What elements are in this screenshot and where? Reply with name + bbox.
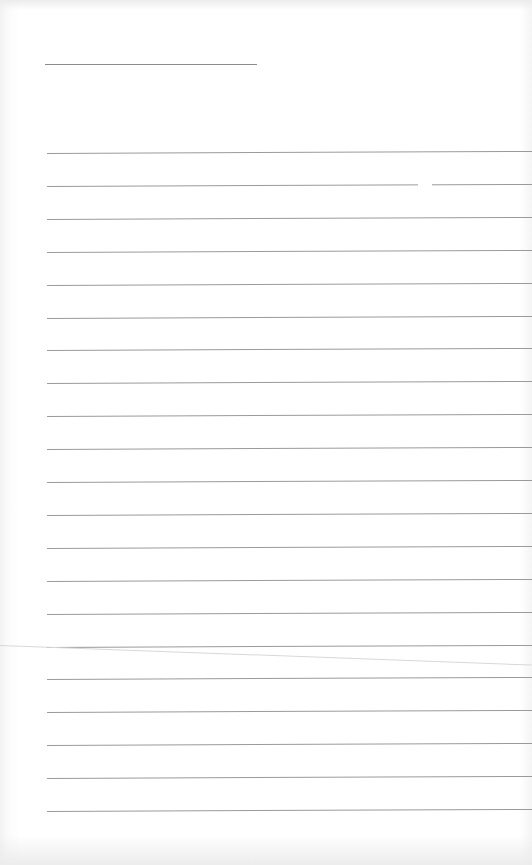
ruled-line	[47, 809, 532, 812]
ruled-line	[47, 414, 532, 417]
ruled-line	[47, 480, 532, 483]
notebook-page	[0, 0, 532, 865]
ruled-line	[47, 447, 532, 450]
ruled-line	[47, 381, 532, 384]
ruled-line	[47, 776, 532, 779]
ruled-line	[47, 579, 532, 582]
ruled-line	[47, 316, 532, 319]
ruled-line	[47, 217, 532, 220]
ruled-line	[47, 710, 532, 713]
ruled-line	[47, 612, 532, 615]
ruled-line	[47, 184, 532, 187]
ruled-line	[47, 250, 532, 253]
ruled-line	[47, 348, 532, 351]
scan-bottom-shadow	[0, 835, 532, 865]
ruled-line	[47, 151, 532, 154]
ruled-line	[47, 677, 532, 680]
ruled-line	[47, 283, 532, 286]
ruled-lines	[0, 0, 532, 865]
ruled-line	[47, 546, 532, 549]
ruled-line	[47, 743, 532, 746]
ruled-line	[47, 645, 532, 648]
ruled-line	[47, 513, 532, 516]
rule-gap	[418, 183, 432, 187]
